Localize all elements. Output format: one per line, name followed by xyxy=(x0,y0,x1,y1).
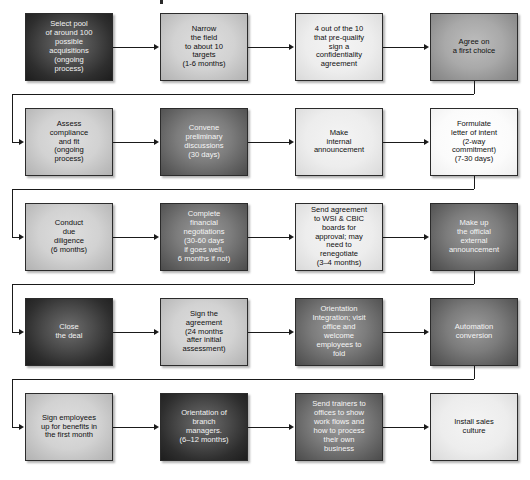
process-node[interactable]: Sign employees up for benefits in the fi… xyxy=(25,393,113,461)
process-node[interactable]: 4 out of the 10 that pre-qualify sign a … xyxy=(295,13,383,81)
process-node-label: Orientation of branch managers. (6–12 mo… xyxy=(180,409,229,445)
wrap-connector-left-down xyxy=(12,94,13,142)
process-node-label: Agree on a first choice xyxy=(453,38,496,56)
process-node[interactable]: Select pool of around 100 possible acqui… xyxy=(25,13,113,81)
process-node-label: Assess compliance and fit (ongoing proce… xyxy=(50,120,88,165)
wrap-connector-arrowhead xyxy=(19,329,24,335)
process-node-label: Conduct due diligence (6 months) xyxy=(51,219,87,255)
wrap-connector-down xyxy=(474,366,475,379)
connector-line xyxy=(113,332,155,333)
connector-arrowhead xyxy=(424,44,429,50)
process-node-label: 4 out of the 10 that pre-qualify sign a … xyxy=(314,25,364,70)
process-node[interactable]: Conduct due diligence (6 months) xyxy=(25,203,113,271)
connector-line xyxy=(383,237,425,238)
process-node[interactable]: Formulate letter of intent (2-way commit… xyxy=(430,108,518,176)
connector-line xyxy=(248,47,290,48)
process-node[interactable]: Make internal announcement xyxy=(295,108,383,176)
connector-arrowhead xyxy=(424,424,429,430)
process-node[interactable]: Make up the official external announceme… xyxy=(430,203,518,271)
connector-arrowhead xyxy=(424,139,429,145)
process-node-label: Sign employees up for benefits in the fi… xyxy=(41,414,97,441)
connector-arrowhead xyxy=(289,234,294,240)
connector-line xyxy=(383,47,425,48)
process-node[interactable]: Install sales culture xyxy=(430,393,518,461)
process-node-label: Complete financial negotiations (30-60 d… xyxy=(178,210,230,264)
process-node-label: Orientation Integration; visit office an… xyxy=(312,305,365,359)
connector-arrowhead xyxy=(424,234,429,240)
connector-arrowhead xyxy=(289,329,294,335)
process-node-label: Narrow the field to about 10 targets (1-… xyxy=(182,25,225,70)
process-node[interactable]: Send agreement to WSI & CBIC boards for … xyxy=(295,203,383,271)
wrap-connector-across xyxy=(12,94,474,95)
process-node[interactable]: Orientation of branch managers. (6–12 mo… xyxy=(160,393,248,461)
wrap-connector-arrowhead xyxy=(19,424,24,430)
wrap-connector-left-down xyxy=(12,189,13,237)
wrap-connector-down xyxy=(474,176,475,189)
wrap-connector-down xyxy=(474,271,475,284)
connector-arrowhead xyxy=(289,424,294,430)
process-node[interactable]: Send trainers to offices to show work fl… xyxy=(295,393,383,461)
connector-line xyxy=(383,332,425,333)
process-node[interactable]: Narrow the field to about 10 targets (1-… xyxy=(160,13,248,81)
connector-arrowhead xyxy=(154,329,159,335)
wrap-connector-across xyxy=(12,379,474,380)
connector-line xyxy=(248,332,290,333)
process-node-label: Formulate letter of intent (2-way commit… xyxy=(451,120,497,165)
wrap-connector-left-down xyxy=(12,379,13,427)
process-node[interactable]: Close the deal xyxy=(25,298,113,366)
wrap-connector-arrowhead xyxy=(19,139,24,145)
connector-arrowhead xyxy=(154,139,159,145)
process-node-label: Make internal announcement xyxy=(314,129,364,156)
wrap-connector-down xyxy=(474,81,475,94)
connector-arrowhead xyxy=(424,329,429,335)
process-node-label: Install sales culture xyxy=(454,418,494,436)
connector-line xyxy=(248,427,290,428)
connector-line xyxy=(113,47,155,48)
process-node-label: Select pool of around 100 possible acqui… xyxy=(46,20,93,74)
connector-line xyxy=(383,142,425,143)
process-node[interactable]: Assess compliance and fit (ongoing proce… xyxy=(25,108,113,176)
connector-arrowhead xyxy=(289,139,294,145)
process-node-label: Close the deal xyxy=(55,323,82,341)
process-node-label: Convene preliminary discussions (30 days… xyxy=(184,124,223,160)
wrap-connector-arrowhead xyxy=(19,234,24,240)
process-node-label: Send trainers to offices to show work fl… xyxy=(312,400,366,454)
connector-line xyxy=(113,427,155,428)
process-node-label: Automation conversion xyxy=(455,323,493,341)
process-node-label: Send agreement to WSI & CBIC boards for … xyxy=(311,206,367,269)
wrap-connector-across xyxy=(12,284,474,285)
wrap-connector-across xyxy=(12,189,474,190)
process-node[interactable]: Convene preliminary discussions (30 days… xyxy=(160,108,248,176)
connector-line xyxy=(113,142,155,143)
flowchart-canvas: Select pool of around 100 possible acqui… xyxy=(0,0,530,480)
process-node[interactable]: Automation conversion xyxy=(430,298,518,366)
connector-arrowhead xyxy=(154,44,159,50)
process-node-label: Sign the agreement (24 months after init… xyxy=(182,310,225,355)
connector-arrowhead xyxy=(289,44,294,50)
process-node[interactable]: Sign the agreement (24 months after init… xyxy=(160,298,248,366)
process-node[interactable]: Complete financial negotiations (30-60 d… xyxy=(160,203,248,271)
connector-arrowhead xyxy=(154,234,159,240)
process-node[interactable]: Orientation Integration; visit office an… xyxy=(295,298,383,366)
connector-line xyxy=(248,237,290,238)
process-node-label: Make up the official external announceme… xyxy=(449,219,499,255)
artifact-speck xyxy=(160,0,163,4)
connector-arrowhead xyxy=(154,424,159,430)
connector-line xyxy=(248,142,290,143)
connector-line xyxy=(383,427,425,428)
wrap-connector-left-down xyxy=(12,284,13,332)
connector-line xyxy=(113,237,155,238)
process-node[interactable]: Agree on a first choice xyxy=(430,13,518,81)
